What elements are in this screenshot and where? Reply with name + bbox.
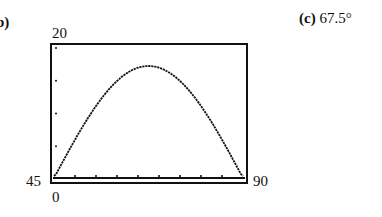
plot-frame — [51, 44, 247, 183]
range-curve — [54, 66, 243, 176]
graph-window — [0, 0, 382, 217]
y-axis-ticks — [55, 47, 57, 147]
